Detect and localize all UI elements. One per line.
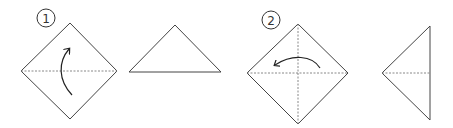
- step-1-number-badge: 1: [37, 9, 55, 27]
- origami-diagram: 1 2: [0, 0, 453, 128]
- step-1-square-diamond: [21, 23, 117, 119]
- step-1-result-triangle: [129, 25, 221, 72]
- fold-up-arrow-icon: [61, 49, 72, 95]
- step-2-result-triangle: [382, 26, 430, 120]
- step-2-number-badge: 2: [262, 11, 280, 29]
- step-1: 1: [21, 9, 221, 119]
- step-2: 2: [247, 11, 430, 124]
- step-2-square-diamond: [247, 24, 348, 124]
- step-1-number: 1: [42, 12, 50, 26]
- step-2-number: 2: [267, 14, 275, 28]
